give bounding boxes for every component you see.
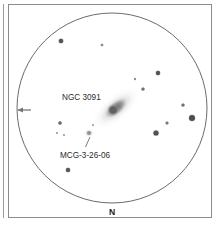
ngc-3091-label: NGC 3091: [62, 93, 101, 102]
ngc-3091-nucleus: [109, 106, 116, 113]
star-14: [92, 124, 94, 126]
star-09: [57, 120, 62, 125]
star-07: [165, 121, 170, 126]
sketch-canvas: NGC 3091 MCG-3-26-06 N: [0, 0, 218, 227]
star-01: [58, 38, 65, 45]
mcg-3-26-06-label: MCG-3-26-06: [60, 151, 110, 160]
star-04: [141, 87, 146, 92]
star-06: [188, 114, 197, 123]
star-13: [134, 78, 136, 80]
star-12: [65, 167, 72, 174]
star-03: [155, 70, 162, 77]
astronomical-sketch-figure: NGC 3091 MCG-3-26-06 N: [0, 0, 218, 227]
star-10: [56, 132, 58, 134]
star-08: [152, 129, 160, 137]
mcg-3-26-06-core: [87, 131, 91, 135]
left-margin-rule: [3, 4, 4, 218]
galaxy-mcg-3-26-06: [84, 129, 94, 137]
star-11: [63, 134, 65, 136]
star-05: [181, 103, 186, 108]
star-02: [100, 43, 104, 47]
north-marker: N: [109, 207, 115, 217]
